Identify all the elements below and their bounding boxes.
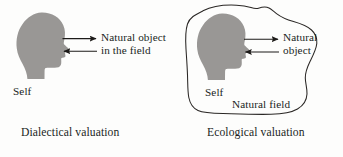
left-self-label: Self — [13, 85, 31, 98]
right-natural-object-line1: Natural — [283, 31, 317, 44]
natural-field-label: Natural field — [232, 98, 290, 111]
panel-dialectical — [17, 13, 97, 79]
left-natural-object-line1: Natural object — [101, 31, 166, 44]
left-caption: Dialectical valuation — [21, 126, 119, 139]
right-natural-object-label: Natural object — [283, 31, 317, 56]
right-caption: Ecological valuation — [207, 126, 305, 139]
right-natural-object-line2: object — [283, 44, 317, 57]
right-self-label: Self — [205, 86, 223, 99]
head-silhouette-icon — [197, 14, 250, 80]
figure-root: Natural object in the field Self Dialect… — [0, 0, 343, 157]
left-natural-object-line2: in the field — [101, 44, 166, 57]
left-natural-object-label: Natural object in the field — [101, 31, 166, 56]
head-silhouette-icon — [17, 13, 70, 79]
